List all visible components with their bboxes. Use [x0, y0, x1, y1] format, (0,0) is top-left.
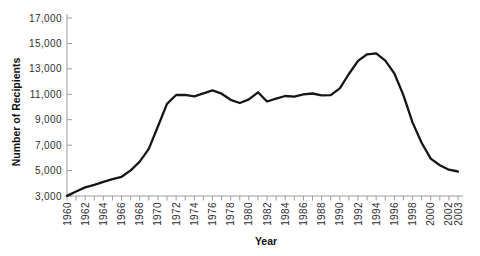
x-tick-label: 1990	[334, 202, 345, 226]
y-tick-label: 11,000	[30, 89, 62, 100]
x-tick-label: 2000	[425, 202, 436, 226]
x-tick-label: 1996	[389, 202, 400, 226]
x-tick-label: 2003	[453, 202, 464, 226]
y-tick-label: 9,000	[35, 114, 62, 125]
x-tick-label: 1976	[207, 202, 218, 226]
x-tick-label: 1960	[62, 202, 73, 226]
x-tick-label: 1968	[134, 202, 145, 226]
data-line	[67, 53, 458, 196]
x-tick-label: 1980	[243, 202, 254, 226]
x-tick-label: 1992	[353, 202, 364, 226]
y-tick-label: 13,000	[29, 63, 62, 74]
x-tick-label: 1962	[80, 202, 91, 226]
y-tick-label: 3,000	[35, 191, 62, 202]
chart-figure: 3,0005,0007,0009,00011,00013,00015,00017…	[0, 0, 480, 256]
x-tick-label: 1998	[407, 202, 418, 226]
y-tick-label: 17,000	[29, 13, 62, 24]
x-tick-label: 1984	[280, 202, 291, 226]
x-tick-label: 1994	[371, 202, 382, 226]
y-tick-label: 5,000	[35, 165, 62, 176]
x-tick-label: 1974	[189, 202, 200, 226]
y-tick-label: 7,000	[35, 140, 62, 151]
y-tick-label: 15,000	[29, 38, 62, 49]
x-tick-label: 1988	[316, 202, 327, 226]
x-tick-label: 1972	[171, 202, 182, 226]
y-axis-title: Number of Recipients	[10, 58, 22, 167]
tick-labels: 3,0005,0007,0009,00011,00013,00015,00017…	[29, 13, 464, 226]
x-axis-title: Year	[255, 235, 277, 247]
x-tick-label: 1978	[225, 202, 236, 226]
x-tick-label: 1966	[116, 202, 127, 226]
x-tick-label: 1964	[98, 202, 109, 226]
x-tick-label: 1970	[152, 202, 163, 226]
recipients-line-chart: 3,0005,0007,0009,00011,00013,00015,00017…	[0, 0, 480, 256]
axes	[67, 14, 463, 196]
x-tick-label: 1982	[262, 202, 273, 226]
x-tick-label: 1986	[298, 202, 309, 226]
